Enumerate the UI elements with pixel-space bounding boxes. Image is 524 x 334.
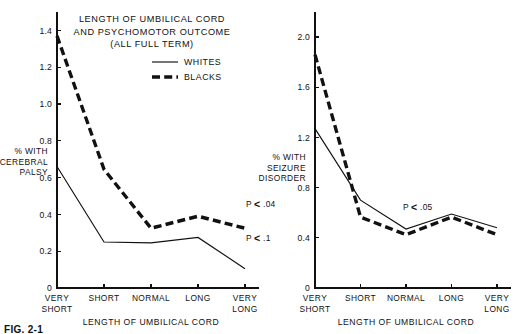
figure-caption: FIG. 2-1 (4, 324, 43, 334)
figure-caption-layer: FIG. 2-1 (0, 0, 524, 334)
figure-root: 00.20.40.60.81.01.21.4VERYSHORTSHORTNORM… (0, 0, 524, 334)
